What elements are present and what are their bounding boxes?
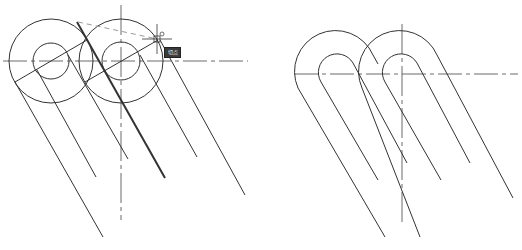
tangent-snap-icon	[160, 32, 164, 36]
snap-tooltip: 切点	[164, 47, 181, 58]
right-finished-view	[294, 24, 518, 237]
cad-drawing	[0, 0, 522, 250]
left-construction-view	[3, 5, 248, 237]
cad-drawing-canvas[interactable]: 切点	[0, 0, 522, 250]
